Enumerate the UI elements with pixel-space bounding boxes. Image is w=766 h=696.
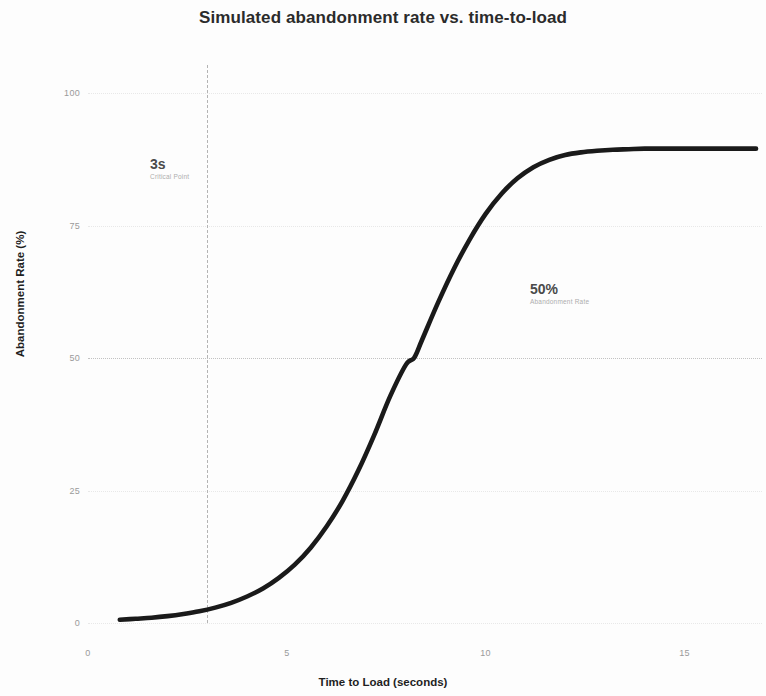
y-tick-label: 25 [40, 486, 80, 496]
annotation-midpoint-caption: Abandonment Rate [530, 297, 589, 306]
annotation-midpoint: 50% Abandonment Rate [530, 282, 589, 306]
x-tick-label: 0 [68, 648, 108, 658]
y-tick-label: 100 [40, 88, 80, 98]
x-axis-title: Time to Load (seconds) [0, 676, 766, 688]
annotation-midpoint-value: 50% [530, 282, 589, 297]
y-tick-label: 75 [40, 221, 80, 231]
annotation-critical-point-value: 3s [150, 157, 189, 172]
y-tick-label: 0 [40, 618, 80, 628]
y-tick-label: 50 [40, 353, 80, 363]
gridline [88, 623, 762, 624]
annotation-critical-point-caption: Critical Point [150, 172, 189, 181]
x-tick-label: 15 [664, 648, 704, 658]
y-axis-tick-labels: 0255075100 [28, 93, 80, 623]
annotation-critical-point: 3s Critical Point [150, 157, 189, 181]
curve-path [120, 149, 756, 620]
chart-figure: Simulated abandonment rate vs. time-to-l… [0, 0, 766, 696]
y-axis-title: Abandonment Rate (%) [14, 194, 26, 394]
x-axis-tick-labels: 051015 [88, 648, 762, 664]
x-tick-label: 5 [267, 648, 307, 658]
x-tick-label: 10 [466, 648, 506, 658]
chart-title: Simulated abandonment rate vs. time-to-l… [0, 8, 766, 28]
